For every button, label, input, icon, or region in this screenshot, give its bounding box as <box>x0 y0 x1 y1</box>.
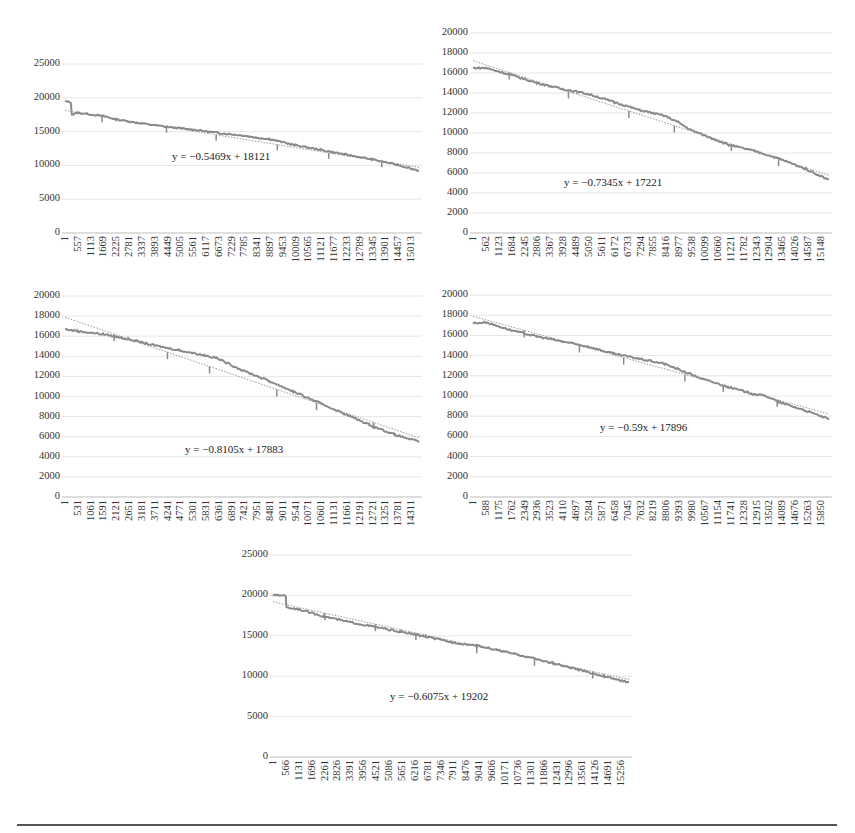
x-tick-label: 15256 <box>615 760 626 786</box>
data-series-line <box>273 595 629 683</box>
x-tick-label: 2261 <box>319 760 330 781</box>
x-tick-label: 10171 <box>499 760 510 786</box>
x-tick-label: 1696 <box>306 760 317 781</box>
trendline <box>273 602 629 680</box>
x-tick-label: 14691 <box>602 760 613 786</box>
x-tick-label: 1 <box>267 760 278 765</box>
x-tick-label: 7346 <box>435 760 446 781</box>
x-tick-label: 12996 <box>563 760 574 786</box>
x-tick-label: 566 <box>280 760 291 776</box>
x-tick-label: 3391 <box>344 760 355 781</box>
bottom-rule <box>17 824 837 826</box>
x-tick-label: 5086 <box>383 760 394 781</box>
x-tick-label: 8476 <box>460 760 471 781</box>
chart-plot: 1566113116962261282633913956452150865651… <box>0 0 855 833</box>
y-tick-label: 0 <box>228 750 268 761</box>
x-tick-label: 9606 <box>486 760 497 781</box>
x-tick-label: 9041 <box>473 760 484 781</box>
x-tick-label: 3956 <box>357 760 368 781</box>
y-tick-label: 25000 <box>228 548 268 559</box>
x-tick-label: 6781 <box>422 760 433 781</box>
x-tick-label: 5651 <box>396 760 407 781</box>
trendline-equation: y = −0.6075x + 19202 <box>390 690 488 702</box>
x-tick-label: 10736 <box>512 760 523 786</box>
x-tick-label: 1131 <box>293 760 304 781</box>
x-tick-label: 14126 <box>589 760 600 786</box>
x-tick-label: 11301 <box>525 760 536 786</box>
x-tick-label: 6216 <box>409 760 420 781</box>
x-tick-label: 12431 <box>551 760 562 786</box>
y-tick-label: 15000 <box>228 629 268 640</box>
y-tick-label: 5000 <box>228 710 268 721</box>
x-tick-label: 2826 <box>331 760 342 781</box>
x-tick-label: 7911 <box>447 760 458 781</box>
y-tick-label: 20000 <box>228 588 268 599</box>
x-tick-label: 13561 <box>576 760 587 786</box>
y-tick-label: 10000 <box>228 669 268 680</box>
x-tick-label: 11866 <box>538 760 549 786</box>
x-tick-label: 4521 <box>370 760 381 781</box>
